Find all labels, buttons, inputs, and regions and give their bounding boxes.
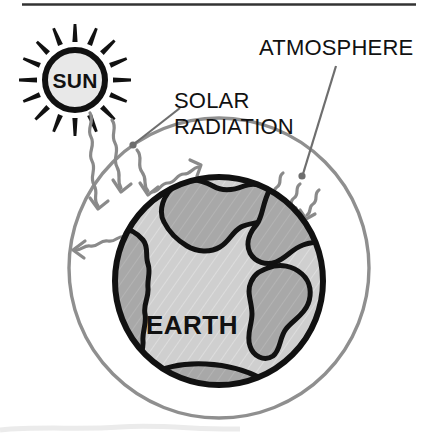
bottom-scan-artifact [0, 426, 240, 430]
solar-radiation-label-line2: RADIATION [174, 114, 294, 139]
diagram-canvas: SUN [0, 0, 429, 438]
earth-label: EARTH [146, 310, 238, 340]
sun-label: SUN [52, 69, 97, 92]
solar-radiation-label-line1: SOLAR [174, 88, 250, 113]
atmosphere-label: ATMOSPHERE [259, 35, 413, 60]
greenhouse-solar-radiation-diagram: SUN [0, 0, 429, 438]
solar-radiation-leader-dot [129, 141, 136, 148]
atmosphere-leader-dot [298, 172, 305, 179]
